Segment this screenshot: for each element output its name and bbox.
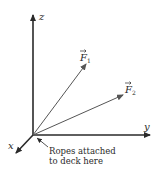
x-axis-label: x <box>8 140 14 151</box>
force-vector-f2: F2 <box>33 82 136 136</box>
x-axis: x <box>8 135 33 153</box>
diagram-canvas: z y x F1 F2 Ropes attached <box>0 0 165 175</box>
attachment-callout: Ropes attached to deck here <box>37 138 116 166</box>
y-axis-label: y <box>143 121 150 132</box>
callout-line-1: Ropes attached <box>49 146 116 156</box>
z-axis: z <box>33 11 45 135</box>
f1-label: F1 <box>79 52 91 64</box>
z-axis-label: z <box>38 11 45 22</box>
callout-line-2: to deck here <box>49 156 103 166</box>
f2-label: F2 <box>124 84 136 96</box>
y-axis: y <box>33 121 150 135</box>
